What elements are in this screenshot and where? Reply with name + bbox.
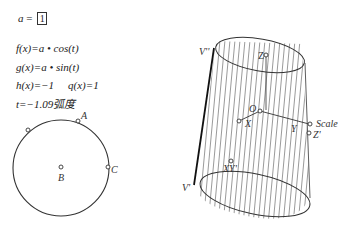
label-x: X (244, 118, 252, 129)
point-o[interactable] (258, 109, 262, 113)
label-z: Z (258, 50, 264, 61)
label-scale: Scale (316, 118, 338, 129)
label-v-double-prime: V'' (199, 46, 210, 57)
label-c: C (111, 164, 118, 175)
point-z-prime[interactable] (307, 131, 311, 135)
point-a[interactable] (76, 119, 80, 123)
circle-point[interactable] (26, 128, 30, 132)
cylinder-figure: V'' V' Z O X Y Scale Z' XY' (182, 31, 338, 225)
label-b: B (58, 172, 64, 183)
label-o: O (249, 103, 256, 114)
label-z-prime: Z' (313, 129, 322, 140)
bottom-ellipse[interactable] (196, 163, 314, 225)
point-x[interactable] (237, 119, 241, 123)
cylinder-hatching (198, 40, 325, 225)
point-z[interactable] (264, 53, 268, 57)
label-v-prime: V' (182, 182, 191, 193)
circle-figure: A B C (13, 110, 118, 216)
point-scale[interactable] (308, 122, 312, 126)
label-a: A (80, 110, 88, 121)
cylinder-left-edge[interactable] (194, 48, 214, 185)
point-b[interactable] (59, 165, 63, 169)
label-xy-prime: XY' (222, 163, 238, 174)
geometry-canvas: A B C (0, 0, 349, 227)
point-c[interactable] (106, 165, 110, 169)
